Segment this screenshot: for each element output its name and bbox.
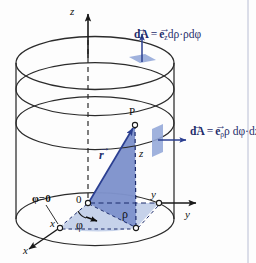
figure-canvas <box>0 0 256 263</box>
cylinder-p-level-ellipse <box>16 97 174 150</box>
x-axis-arrow <box>29 229 58 249</box>
x-foot-marker <box>57 225 62 230</box>
cylinder-top-ellipse <box>16 37 174 90</box>
base-projection-marker <box>133 225 138 230</box>
point-p-marker <box>132 122 137 127</box>
origin-marker <box>85 200 90 205</box>
phi-zero-leader-line <box>46 205 58 224</box>
y-foot-marker <box>156 200 161 205</box>
cylindrical-coordinates-figure: z y x 0 P x y ρ φ z φ=0 → r → dA = → e z… <box>0 0 256 263</box>
dA-rho-area-patch <box>152 124 186 157</box>
